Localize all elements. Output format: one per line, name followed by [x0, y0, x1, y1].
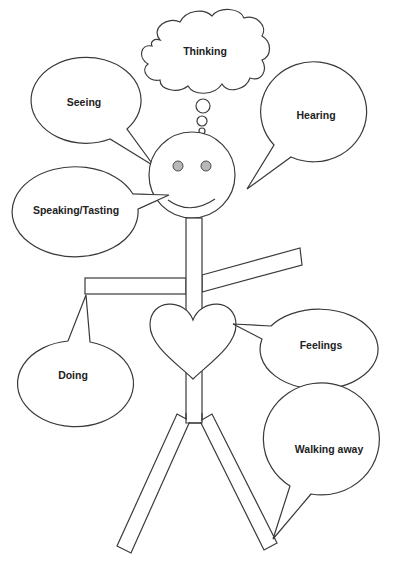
- speech-bubble-doing: [18, 295, 134, 427]
- hearing-bubble: Hearing: [247, 62, 367, 189]
- seeing-bubble: Seeing: [31, 57, 154, 166]
- hearing-label: Hearing: [296, 109, 335, 121]
- seeing-label: Seeing: [67, 96, 101, 108]
- speaking-bubble: Speaking/Tasting: [12, 167, 169, 257]
- thinking-bubble: Thinking: [142, 9, 270, 134]
- doing-bubble: Doing: [18, 295, 134, 427]
- thought-dot-medium: [197, 116, 207, 126]
- speaking-label: Speaking/Tasting: [33, 204, 119, 216]
- stick-figure-diagram: Thinking Seeing Hearing Speaking/Tasting: [0, 0, 399, 567]
- thought-dot-large: [196, 99, 210, 113]
- walking-label: Walking away: [295, 443, 364, 455]
- head-circle: [149, 132, 235, 218]
- right-arm: [202, 248, 302, 292]
- left-eye-icon: [173, 161, 183, 171]
- speech-bubble-walking: [263, 383, 379, 539]
- walking-bubble: Walking away: [263, 383, 379, 539]
- left-leg: [117, 414, 190, 553]
- right-eye-icon: [201, 161, 211, 171]
- feelings-label: Feelings: [300, 339, 343, 351]
- diagram-canvas: Thinking Seeing Hearing Speaking/Tasting: [0, 0, 399, 567]
- speech-bubble-hearing: [247, 62, 367, 189]
- doing-label: Doing: [58, 369, 88, 381]
- head: [149, 132, 235, 218]
- left-arm: [85, 278, 186, 294]
- feelings-bubble: Feelings: [233, 309, 378, 389]
- thinking-label: Thinking: [183, 45, 227, 57]
- speech-bubble-seeing: [31, 57, 154, 166]
